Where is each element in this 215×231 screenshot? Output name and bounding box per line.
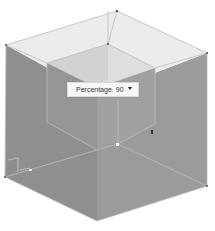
caret-down-icon[interactable]	[128, 87, 132, 90]
cursor-icon	[151, 130, 153, 134]
modeling-viewport[interactable]: Percentage 90	[0, 0, 215, 231]
measurement-label: Percentage	[76, 86, 112, 93]
vertex-point	[116, 143, 119, 146]
cube-model[interactable]	[0, 0, 215, 231]
measurement-value-input[interactable]: 90	[116, 86, 124, 93]
measurement-box[interactable]: Percentage 90	[67, 82, 139, 97]
inference-point	[29, 169, 32, 171]
